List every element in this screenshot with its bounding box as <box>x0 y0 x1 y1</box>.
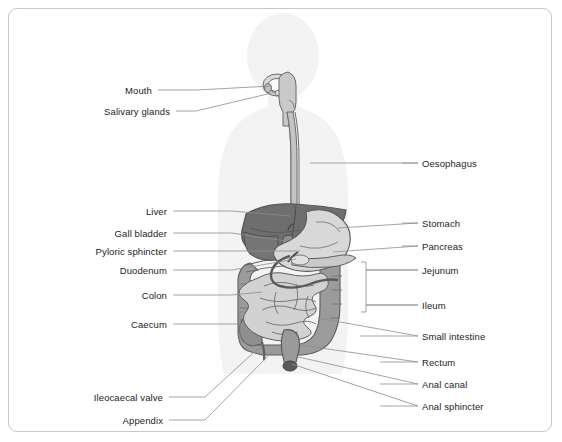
leader-line-colon <box>232 292 262 295</box>
label-duodenum: Duodenum <box>0 265 167 276</box>
label-ileum: Ileum <box>422 300 446 311</box>
leader-line-pancreas <box>333 246 418 252</box>
leader-line-appendix <box>205 352 272 420</box>
label-caecum: Caecum <box>0 319 167 330</box>
label-gall-bladder: Gall bladder <box>0 228 167 239</box>
leader-line-mouth <box>196 86 272 90</box>
label-oesophagus: Oesophagus <box>422 158 477 169</box>
label-anal-sphincter: Anal sphincter <box>422 401 484 412</box>
leader-line-anal-canal <box>294 356 418 384</box>
leader-line-liver <box>232 211 290 216</box>
label-stomach: Stomach <box>422 218 460 229</box>
label-jejunum: Jejunum <box>422 265 459 276</box>
leader-line-small-intestine <box>318 318 418 336</box>
label-rectum: Rectum <box>422 357 455 368</box>
label-liver: Liver <box>0 206 167 217</box>
leader-line-gall-bladder <box>232 233 286 241</box>
leader-line-rectum <box>300 345 418 362</box>
label-appendix: Appendix <box>0 415 163 426</box>
label-salivary-glands: Salivary glands <box>0 106 170 117</box>
label-pancreas: Pancreas <box>422 241 463 252</box>
digestive-system-figure: MouthSalivary glandsLiverGall bladderPyl… <box>0 0 562 442</box>
leader-line-anal-sphincter <box>292 364 418 406</box>
leader-line-salivary-glands <box>196 92 276 111</box>
label-colon: Colon <box>0 290 167 301</box>
label-ileocaecal-valve: Ileocaecal valve <box>0 392 163 403</box>
label-pyloric-sphincter: Pyloric sphincter <box>0 246 167 257</box>
leader-line-stomach <box>338 223 418 228</box>
leader-lines-layer <box>0 0 562 442</box>
label-anal-canal: Anal canal <box>422 379 467 390</box>
label-small-intestine: Small intestine <box>422 331 485 342</box>
label-mouth: Mouth <box>0 85 152 96</box>
leader-line-duodenum <box>232 259 296 270</box>
